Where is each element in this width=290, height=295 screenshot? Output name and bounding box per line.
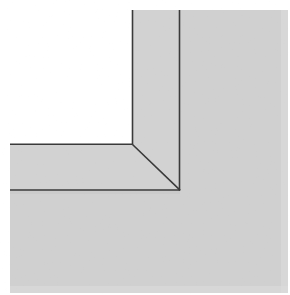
image-canvas: Mitered frame corner picture-frame-corne… (0, 0, 290, 295)
frame-corner-illustration (0, 0, 290, 295)
paper-grain-overlay (0, 0, 290, 295)
